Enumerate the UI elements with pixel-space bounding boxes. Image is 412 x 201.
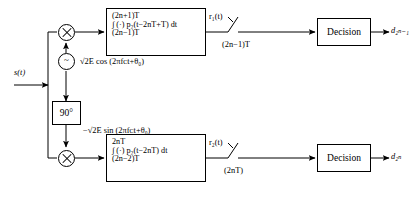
mixer-inphase xyxy=(58,24,75,41)
decision-output-upper: d₂ₙ₋₁ xyxy=(391,25,409,35)
lower-branch-signal-label: r₂(t) xyxy=(209,138,223,147)
lower-sample-time-label: (2nT) xyxy=(224,166,243,175)
integrator-lower-limit-lower: (2n−2)T xyxy=(112,155,205,164)
phase-shifter-block: 90° xyxy=(52,101,81,125)
mixer-quadrature xyxy=(58,150,75,167)
inphase-carrier-label: √2E cos (2πfᴄt+θ₀) xyxy=(80,57,144,66)
upper-branch-signal-label: r₁(t) xyxy=(209,12,223,21)
input-signal-label: s(t) xyxy=(14,68,25,77)
integrator-block-upper: (2n+1)T ∫ (·) p₂(t−2nT+T) dt (2n−1)T xyxy=(106,8,206,56)
decision-output-lower: d₂ₙ xyxy=(391,151,402,161)
decision-block-lower: Decision xyxy=(317,144,371,172)
integrator-lower-limit-upper: (2n−1)T xyxy=(112,29,205,38)
upper-sample-time-label: (2n−1)T xyxy=(222,40,250,49)
decision-block-upper: Decision xyxy=(317,18,371,46)
local-oscillator-icon: ~ xyxy=(58,53,75,70)
integrator-block-lower: 2nT ∫ (·) p₂(t−2nT) dt (2n−2)T xyxy=(106,134,206,182)
block-diagram: s(t) ~ √2E cos (2πfᴄt+θ₀) 90° −√2E sin (… xyxy=(0,0,412,201)
